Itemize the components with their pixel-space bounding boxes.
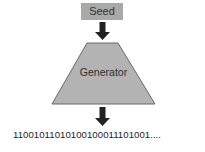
- generator-label: Generator: [52, 66, 155, 78]
- arrow-down-icon: [95, 107, 110, 126]
- output-bit-sequence: 11001011010100100011101001....: [13, 129, 161, 140]
- arrow-down-icon: [95, 22, 110, 40]
